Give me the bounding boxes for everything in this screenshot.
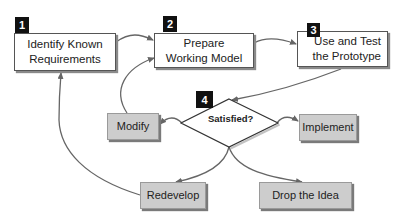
step3-number-badge: 3 [307, 23, 320, 37]
step-identify-requirements: Identify Known Requirements [14, 33, 116, 71]
step2-label-line1: Prepare [166, 36, 243, 51]
implement-label: Implement [302, 120, 353, 135]
arrow-step1-to-step2 [116, 35, 153, 42]
arrow-decision-to-modify [160, 118, 182, 124]
outcome-redevelop: Redevelop [140, 182, 206, 209]
drop-label: Drop the Idea [272, 188, 339, 203]
arrow-step3-to-decision [232, 69, 341, 100]
step1-label-line2: Requirements [27, 52, 102, 67]
step2-label-line2: Working Model [166, 51, 243, 66]
outcome-modify: Modify [107, 113, 159, 140]
arrow-decision-to-redevelop [176, 147, 229, 182]
step3-label-line2: the Prototype [313, 49, 381, 64]
step-prepare-working-model: Prepare Working Model [154, 33, 254, 68]
step4-number-badge: 4 [196, 91, 213, 108]
arrow-decision-to-implement [277, 117, 298, 123]
arrow-decision-to-drop [229, 147, 302, 182]
outcome-drop-the-idea: Drop the Idea [259, 182, 352, 209]
arrow-step2-to-step3 [254, 39, 296, 44]
step2-number-badge: 2 [163, 16, 177, 32]
step1-number-badge: 1 [15, 17, 29, 33]
modify-label: Modify [117, 119, 149, 134]
decision-label: Satisfied? [208, 113, 253, 124]
arrow-modify-to-step2 [121, 58, 154, 113]
prototyping-flowchart: Identify Known Requirements 1 Prepare Wo… [0, 0, 409, 219]
step1-label-line1: Identify Known [27, 37, 102, 52]
redevelop-label: Redevelop [147, 188, 200, 203]
outcome-implement: Implement [299, 114, 357, 141]
step3-label-line1: Use and Test [313, 34, 381, 49]
